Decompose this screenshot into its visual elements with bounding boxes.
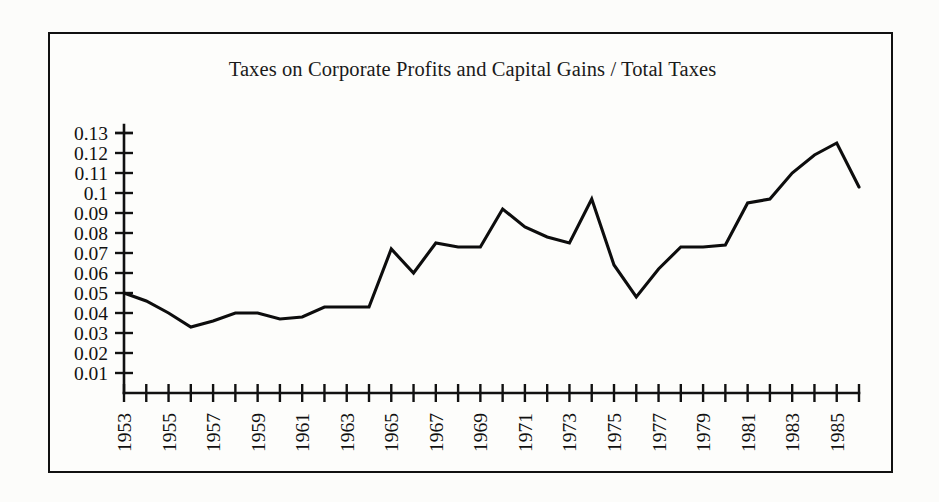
x-tick-label: 1975	[604, 413, 625, 452]
data-series-line	[124, 143, 859, 327]
y-tick-label: 0.07	[74, 243, 108, 264]
x-tick-label: 1969	[470, 413, 491, 452]
y-tick-label: 0.11	[75, 163, 108, 184]
chart-frame: Taxes on Corporate Profits and Capital G…	[48, 32, 893, 473]
y-tick-label: 0.06	[74, 263, 108, 284]
y-tick-label: 0.02	[74, 343, 108, 364]
x-tick-label: 1967	[426, 413, 447, 452]
y-tick-label: 0.01	[74, 363, 108, 384]
x-tick-label: 1959	[248, 413, 269, 452]
x-tick-label: 1985	[827, 413, 848, 452]
x-tick-label: 1963	[337, 413, 358, 452]
y-tick-label: 0.03	[74, 323, 108, 344]
x-tick-label: 1973	[559, 413, 580, 452]
y-tick-label: 0.05	[74, 283, 108, 304]
y-tick-label: 0.12	[74, 143, 108, 164]
x-tick-label: 1971	[515, 413, 536, 452]
x-tick-label: 1965	[381, 413, 402, 452]
x-tick-label: 1953	[114, 413, 135, 452]
y-tick-label: 0.1	[84, 183, 108, 204]
x-tick-label: 1961	[292, 413, 313, 452]
x-tick-label: 1981	[738, 413, 759, 452]
y-tick-label: 0.13	[74, 123, 108, 144]
x-tick-label: 1957	[203, 413, 224, 452]
x-tick-label: 1955	[159, 413, 180, 452]
y-tick-label: 0.04	[74, 303, 108, 324]
line-chart-plot: 0.130.120.110.10.090.080.070.060.050.040…	[50, 34, 895, 475]
y-axis: 0.130.120.110.10.090.080.070.060.050.040…	[74, 123, 133, 394]
x-tick-label: 1977	[649, 413, 670, 452]
x-axis: 1953195519571959196119631965196719691971…	[114, 384, 859, 452]
x-tick-label: 1979	[693, 413, 714, 452]
x-tick-label: 1983	[782, 413, 803, 452]
y-tick-label: 0.08	[74, 223, 108, 244]
data-series	[124, 143, 859, 327]
y-tick-label: 0.09	[74, 203, 108, 224]
figure-root: Taxes on Corporate Profits and Capital G…	[0, 0, 939, 502]
